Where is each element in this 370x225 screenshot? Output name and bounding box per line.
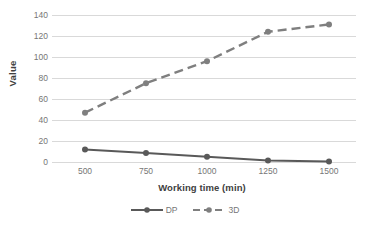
legend-swatch-3d-icon bbox=[193, 205, 225, 215]
data-point[interactable] bbox=[143, 150, 149, 156]
line-chart: Value 140 120 100 80 60 40 20 0 500 750 … bbox=[0, 0, 370, 225]
legend-item-3d[interactable]: 3D bbox=[193, 205, 239, 215]
x-tick-label: 1000 bbox=[183, 166, 231, 176]
x-tick-label: 1250 bbox=[244, 166, 292, 176]
gridlines bbox=[52, 15, 356, 162]
data-point[interactable] bbox=[82, 146, 88, 152]
chart-legend: DP 3D bbox=[0, 205, 370, 215]
series-layer bbox=[82, 21, 332, 164]
data-point[interactable] bbox=[143, 80, 149, 86]
data-point[interactable] bbox=[326, 158, 332, 164]
legend-label-3d: 3D bbox=[228, 205, 239, 215]
x-tick-label: 500 bbox=[61, 166, 109, 176]
legend-swatch-dp-icon bbox=[131, 205, 163, 215]
data-point[interactable] bbox=[204, 58, 210, 64]
legend-item-dp[interactable]: DP bbox=[131, 205, 178, 215]
data-point[interactable] bbox=[265, 157, 271, 163]
x-tick-label: 1500 bbox=[305, 166, 353, 176]
x-tick-label: 750 bbox=[122, 166, 170, 176]
data-point[interactable] bbox=[204, 154, 210, 160]
data-point[interactable] bbox=[265, 29, 271, 35]
x-axis-title: Working time (min) bbox=[48, 182, 356, 193]
data-point[interactable] bbox=[82, 110, 88, 116]
data-point[interactable] bbox=[326, 21, 332, 27]
legend-label-dp: DP bbox=[166, 205, 178, 215]
